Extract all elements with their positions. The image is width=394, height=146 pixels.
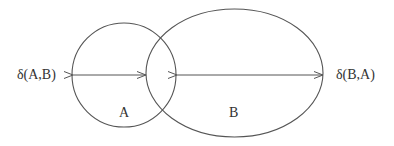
delta-ab-label: δ(A,B) [17,68,56,82]
set-a-label: A [119,106,129,120]
delta-ba-label: δ(B,A) [336,68,375,82]
diagram-svg [0,0,394,146]
set-b-label: B [229,106,238,120]
diagram-canvas: δ(A,B) δ(B,A) A B [0,0,394,146]
